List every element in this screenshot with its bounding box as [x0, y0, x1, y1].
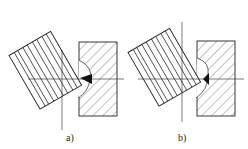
panel-a-label: a) [66, 132, 74, 143]
panel-b [128, 22, 244, 122]
panel-a [9, 31, 124, 130]
cutter-b [128, 28, 201, 106]
panel-b-label: b) [178, 132, 186, 143]
cutter-a [9, 31, 82, 109]
diagram [0, 0, 248, 149]
